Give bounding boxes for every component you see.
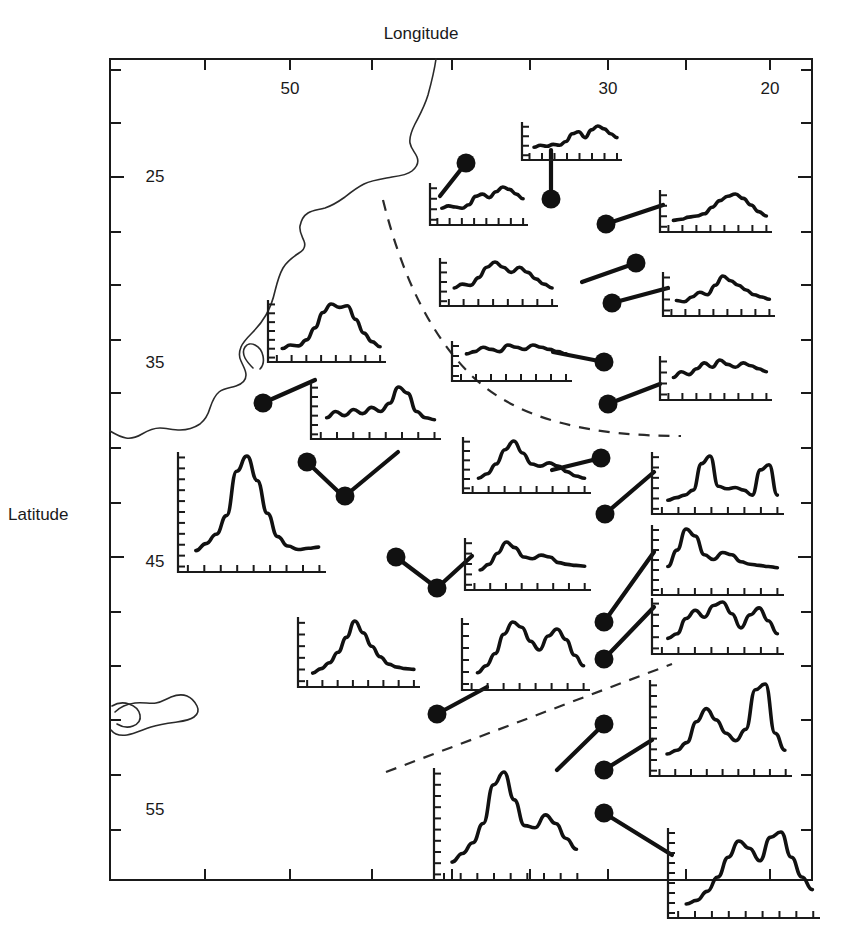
inset-axis <box>652 598 784 654</box>
leader-line <box>604 552 654 622</box>
inset-series-curve <box>668 529 778 568</box>
inset-series-curve <box>442 187 523 208</box>
inset-series-curve <box>673 360 766 378</box>
inset-series-curve <box>668 602 778 638</box>
leader-line <box>557 724 604 770</box>
site-marker[interactable] <box>596 505 615 524</box>
inset-plot <box>440 258 558 306</box>
inset-plot <box>652 598 784 654</box>
leader-line <box>345 452 398 496</box>
site-marker[interactable] <box>603 294 622 313</box>
inset-series-curve <box>313 621 414 673</box>
inset-series-curve <box>667 684 785 754</box>
inset-plot <box>311 383 441 439</box>
y-tick-label-1: 35 <box>146 353 165 373</box>
site-leader-lines <box>263 150 672 855</box>
site-marker[interactable] <box>595 650 614 669</box>
map-figure: Longitude Latitude 50 30 20 <box>0 0 842 950</box>
x-tick-label-2: 20 <box>761 79 780 99</box>
inset-series-curve <box>676 276 769 302</box>
inset-series-curve <box>686 832 812 904</box>
site-marker[interactable] <box>298 453 317 472</box>
inset-series-curve <box>534 126 617 147</box>
inset-series-curve <box>452 772 577 862</box>
leader-line <box>604 813 672 855</box>
site-marker[interactable] <box>457 154 476 173</box>
site-marker[interactable] <box>595 353 614 372</box>
inset-plot <box>298 617 420 687</box>
inset-plot <box>452 341 572 381</box>
site-marker[interactable] <box>595 804 614 823</box>
inset-series-curve <box>282 304 380 349</box>
axis-ticks <box>110 59 812 880</box>
y-tick-label-2: 45 <box>146 552 165 572</box>
site-marker[interactable] <box>542 190 561 209</box>
inset-plots <box>178 122 820 918</box>
inset-axis <box>522 122 622 160</box>
plot-frame <box>110 59 812 880</box>
inset-series-curve <box>480 542 585 570</box>
site-marker[interactable] <box>595 613 614 632</box>
inset-series-curve <box>327 387 435 420</box>
inset-plot <box>650 680 792 776</box>
site-marker[interactable] <box>597 215 616 234</box>
site-marker[interactable] <box>336 487 355 506</box>
leader-line <box>605 472 654 514</box>
figure-canvas <box>0 0 842 950</box>
site-marker[interactable] <box>627 254 646 273</box>
x-tick-label-1: 30 <box>599 79 618 99</box>
site-marker[interactable] <box>428 705 447 724</box>
site-marker[interactable] <box>254 394 273 413</box>
x-tick-label-0: 50 <box>281 79 300 99</box>
inset-series-curve <box>477 622 583 673</box>
inset-series-curve <box>668 456 778 500</box>
site-markers <box>254 154 646 823</box>
y-tick-label-3: 55 <box>146 800 165 820</box>
inset-plot <box>668 828 820 918</box>
inset-plot <box>462 618 590 690</box>
inset-plot <box>652 452 784 514</box>
inset-series-curve <box>196 456 319 551</box>
inset-series-curve <box>478 441 584 478</box>
inset-plot <box>663 272 775 316</box>
inset-plot <box>660 190 772 232</box>
inset-plot <box>434 768 584 880</box>
inset-plot <box>652 525 784 595</box>
y-tick-label-0: 25 <box>146 167 165 187</box>
inset-series-curve <box>454 262 552 288</box>
site-marker[interactable] <box>595 761 614 780</box>
inset-series-curve <box>673 194 766 220</box>
site-marker[interactable] <box>595 715 614 734</box>
site-marker[interactable] <box>592 449 611 468</box>
inset-plot <box>660 356 772 400</box>
site-marker[interactable] <box>428 579 447 598</box>
dashed-boundary-arc <box>383 200 681 436</box>
inset-plot <box>268 300 386 362</box>
inset-axis <box>652 452 784 514</box>
inset-plot <box>522 122 622 160</box>
inset-plot <box>465 538 591 590</box>
site-marker[interactable] <box>599 395 618 414</box>
site-marker[interactable] <box>387 548 406 567</box>
